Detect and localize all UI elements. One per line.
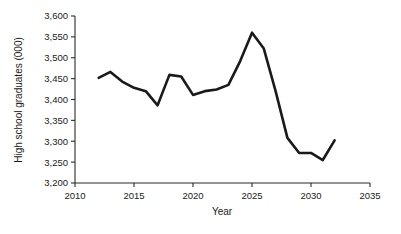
x-tick-label: 2030 (300, 190, 321, 201)
x-tick-label: 2020 (182, 190, 203, 201)
y-tick-label: 3,500 (44, 52, 68, 63)
y-axis-ticks (71, 16, 75, 183)
y-tick-label: 3,450 (44, 73, 68, 84)
x-tick-label: 2015 (123, 190, 144, 201)
x-tick-label: 2025 (241, 190, 262, 201)
chart-canvas: 3,2003,2503,3003,3503,4003,4503,5003,550… (0, 0, 401, 234)
x-tick-label: 2010 (64, 190, 85, 201)
x-axis-tick-labels: 201020152020202520302035 (64, 190, 380, 201)
data-series-line (99, 33, 335, 160)
y-tick-label: 3,250 (44, 157, 68, 168)
line-chart: 3,2003,2503,3003,3503,4003,4503,5003,550… (0, 0, 401, 234)
x-axis-title: Year (212, 206, 233, 217)
y-tick-label: 3,350 (44, 115, 68, 126)
y-tick-label: 3,300 (44, 136, 68, 147)
y-tick-label: 3,200 (44, 177, 68, 188)
y-tick-label: 3,400 (44, 94, 68, 105)
y-axis-title: High school graduates (000) (13, 37, 24, 163)
y-tick-label: 3,550 (44, 31, 68, 42)
x-axis-ticks (75, 183, 370, 187)
y-tick-label: 3,600 (44, 10, 68, 21)
x-tick-label: 2035 (359, 190, 380, 201)
y-axis-tick-labels: 3,2003,2503,3003,3503,4003,4503,5003,550… (44, 10, 68, 188)
